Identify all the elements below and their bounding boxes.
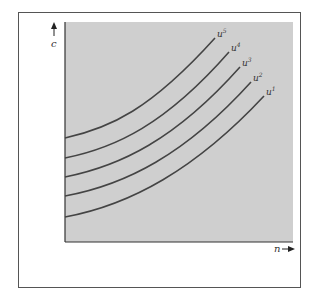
- indifference-curve-diagram: c n u5 u4 u3 u2 u1: [0, 0, 319, 294]
- arrow-up-icon: [51, 22, 57, 29]
- arrow-right-icon: [288, 246, 295, 252]
- y-axis-label: c: [51, 38, 57, 49]
- x-axis-arrow: [282, 246, 295, 252]
- x-axis-label: n: [274, 243, 280, 254]
- y-axis-arrow: [51, 22, 57, 36]
